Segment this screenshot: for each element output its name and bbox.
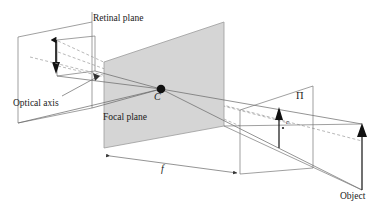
optical-axis-leader <box>62 73 100 96</box>
image-point-label: c <box>286 119 289 126</box>
figure-canvas: Retinal plane Optical axis Focal plane C… <box>0 0 384 217</box>
image-plane-label: Π <box>296 91 304 102</box>
object-arrow <box>357 123 367 190</box>
focal-length-label: f <box>161 164 164 174</box>
focal-length-dimension <box>110 156 237 173</box>
focal-plane <box>104 22 224 148</box>
image-plane-arrow <box>275 107 283 148</box>
retinal-image-arrow <box>52 40 60 74</box>
center-of-projection-label: C <box>154 92 161 102</box>
optical-axis-label: Optical axis <box>13 99 59 109</box>
focal-plane-label: Focal plane <box>103 113 147 123</box>
object-label: Object <box>340 192 365 202</box>
image-point-c-marker <box>282 127 284 129</box>
object-cone-rays <box>161 89 362 190</box>
retinal-plane-label: Retinal plane <box>93 14 143 24</box>
perspective-projection-diagram <box>0 0 384 217</box>
